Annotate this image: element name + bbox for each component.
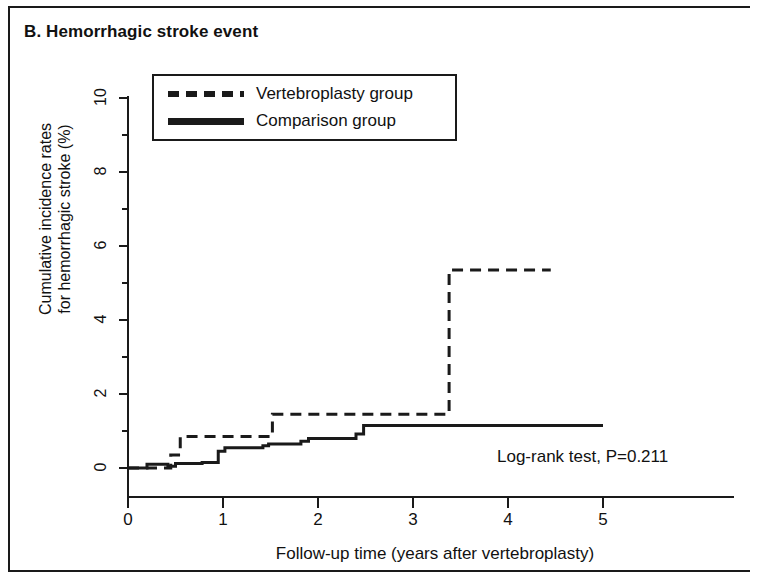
- curve-comparison-group: [128, 425, 603, 468]
- curve-canvas: [0, 0, 759, 582]
- figure-panel: B. Hemorrhagic stroke event 0246810 0123…: [0, 0, 759, 582]
